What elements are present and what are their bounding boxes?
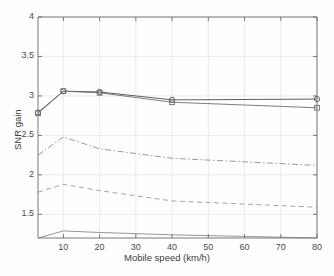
chart-plot-area: [0, 0, 334, 276]
y-tick-label: 2: [29, 170, 34, 179]
x-tick-label: 80: [302, 243, 332, 252]
series-line-curve-4-dashed: [38, 184, 317, 207]
x-tick-label: 50: [193, 243, 223, 252]
x-tick-label: 10: [48, 243, 78, 252]
y-tick-label: 1.5: [21, 209, 34, 218]
y-tick-label: 3: [29, 91, 34, 100]
y-tick-label: 3.5: [21, 51, 34, 60]
series-line-curve-1-circle-markers: [38, 91, 317, 112]
series-line-curve-3-dashdot: [38, 137, 317, 165]
x-axis-label: Mobile speed (km/h): [0, 252, 334, 263]
y-axis-label: SNR gain: [12, 109, 23, 150]
series-line-curve-5-baseline: [38, 231, 317, 238]
y-tick-label: 4: [29, 12, 34, 21]
x-tick-label: 40: [157, 243, 187, 252]
x-tick-label: 70: [266, 243, 296, 252]
axes-frame: [38, 17, 317, 238]
gridlines: [38, 17, 317, 238]
x-tick-label: 20: [85, 243, 115, 252]
x-tick-label: 30: [121, 243, 151, 252]
figure-container: 1.522.533.541020304050607080 Mobile spee…: [0, 0, 334, 276]
x-tick-label: 60: [230, 243, 260, 252]
series-line-curve-2-square-markers: [38, 91, 317, 113]
data-series-layer: [35, 89, 319, 238]
tick-marks: [38, 17, 317, 238]
y-tick-label: 2.5: [21, 130, 34, 139]
